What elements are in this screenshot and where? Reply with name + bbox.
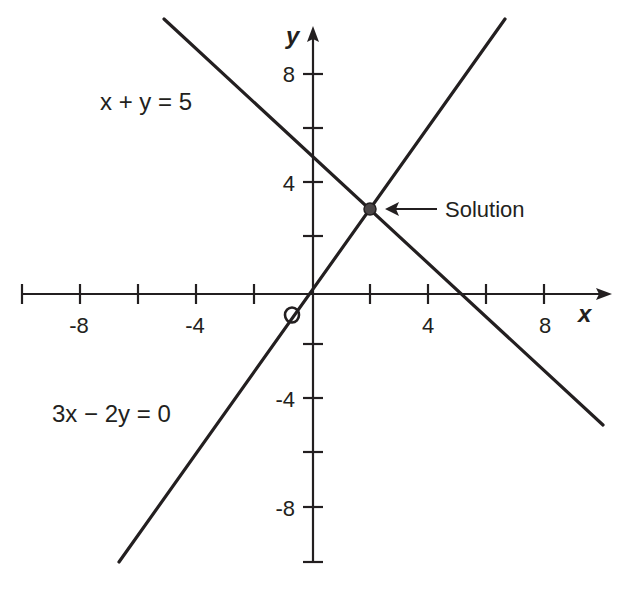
x-axis bbox=[22, 284, 612, 304]
solution-point bbox=[364, 203, 376, 215]
y-tick-label: 4 bbox=[283, 171, 295, 196]
y-tick-label: -8 bbox=[275, 496, 295, 521]
y-axis-label: y bbox=[285, 22, 301, 49]
coordinate-plane: Solution x + y = 5 3x − 2y = 0 y x -8 -4… bbox=[0, 0, 621, 590]
equation-label-2: 3x − 2y = 0 bbox=[52, 400, 171, 427]
solution-arrow-icon bbox=[385, 202, 437, 216]
x-tick-label: -8 bbox=[69, 313, 89, 338]
x-tick-label: 8 bbox=[539, 313, 551, 338]
solution-label: Solution bbox=[445, 197, 525, 222]
x-tick-label: -4 bbox=[185, 313, 205, 338]
y-tick-label: 8 bbox=[283, 62, 295, 87]
y-tick-label: -4 bbox=[275, 387, 295, 412]
line-x-plus-y-eq-5 bbox=[164, 19, 603, 425]
x-axis-label: x bbox=[576, 300, 593, 327]
x-tick-label: 4 bbox=[422, 313, 434, 338]
equation-label-1: x + y = 5 bbox=[100, 88, 192, 115]
